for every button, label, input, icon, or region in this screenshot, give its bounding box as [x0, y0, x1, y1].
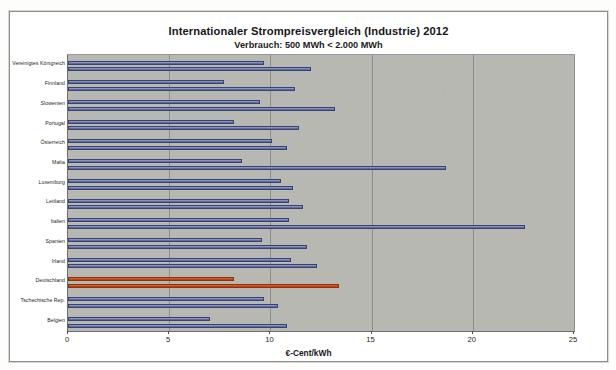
bar [68, 245, 307, 249]
bar [68, 205, 303, 209]
x-tick-label: 5 [166, 335, 170, 344]
y-axis-label: Slowenien [7, 100, 65, 106]
bar [68, 179, 281, 183]
bar [68, 186, 293, 190]
chart-page-frame: Internationaler Strompreisvergleich (Ind… [9, 11, 608, 362]
bar [68, 120, 234, 124]
x-tick-label: 20 [468, 335, 476, 344]
y-axis-label: Spanien [7, 238, 65, 244]
x-tick-label: 10 [265, 335, 273, 344]
gridline [473, 55, 474, 331]
y-axis-label: Lettland [7, 198, 65, 204]
bar [68, 67, 311, 71]
scanned-page-background: Internationaler Strompreisvergleich (Ind… [0, 0, 616, 370]
bar [68, 107, 335, 111]
bar [68, 139, 272, 143]
bar [68, 304, 278, 308]
gridline [574, 55, 575, 331]
y-axis-category-labels: Vereinigtes KönigreichFinnlandSlowenienP… [10, 54, 65, 330]
bar [68, 218, 289, 222]
chart-title: Internationaler Strompreisvergleich (Ind… [10, 24, 607, 38]
gridline [270, 55, 271, 331]
y-axis-label: Luxemburg [7, 179, 65, 185]
x-tick-mark [371, 331, 372, 334]
bar [68, 199, 289, 203]
chart-title-block: Internationaler Strompreisvergleich (Ind… [10, 24, 607, 52]
bar [68, 264, 317, 268]
x-tick-mark [269, 331, 270, 334]
bar [68, 100, 260, 104]
bar [68, 87, 295, 91]
x-tick-label: 15 [366, 335, 374, 344]
x-axis-title: €-Cent/kWh [10, 348, 607, 358]
bar [68, 317, 210, 321]
bar [68, 277, 234, 281]
bar [68, 126, 299, 130]
bar [68, 146, 287, 150]
gridline [372, 55, 373, 331]
y-axis-label: Tschechische Rep. [7, 297, 65, 303]
y-axis-label: Irland [7, 258, 65, 264]
bar [68, 238, 262, 242]
x-tick-label: 0 [65, 335, 69, 344]
x-axis-ticks: 0510152025 [67, 331, 575, 345]
bar [68, 324, 287, 328]
y-axis-label: Österreich [7, 139, 65, 145]
x-tick-mark [573, 331, 574, 334]
y-axis-label: Finnland [7, 80, 65, 86]
gridline [169, 55, 170, 331]
x-tick-mark [472, 331, 473, 334]
bar [68, 80, 224, 84]
y-axis-label: Malta [7, 159, 65, 165]
bar [68, 61, 264, 65]
plot-area [67, 54, 575, 332]
x-tick-label: 25 [569, 335, 577, 344]
bar [68, 166, 446, 170]
bar [68, 159, 242, 163]
chart-subtitle: Verbrauch: 500 MWh < 2.000 MWh [10, 39, 607, 52]
x-tick-mark [168, 331, 169, 334]
y-axis-label: Italien [7, 218, 65, 224]
bar [68, 284, 339, 288]
y-axis-label: Deutschland [7, 277, 65, 283]
bar [68, 297, 264, 301]
y-axis-label: Belgien [7, 317, 65, 323]
chart-canvas: Internationaler Strompreisvergleich (Ind… [10, 12, 607, 361]
y-axis-label: Vereinigtes Königreich [7, 60, 65, 66]
y-axis-label: Portugal [7, 120, 65, 126]
bar [68, 258, 291, 262]
x-tick-mark [67, 331, 68, 334]
bar [68, 225, 525, 229]
